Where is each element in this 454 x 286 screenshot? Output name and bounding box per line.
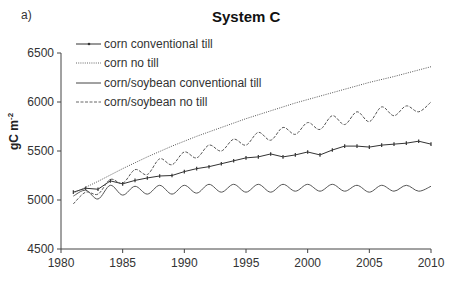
x-tick-label: 1980 <box>48 256 75 270</box>
x-tick-label: 1990 <box>171 256 198 270</box>
y-tick-label: 5000 <box>27 193 54 207</box>
legend-item-corn-soybean-conventional-till: corn/soybean conventional till <box>76 73 261 93</box>
legend-label: corn no till <box>104 56 159 70</box>
x-tick-label: 1995 <box>233 256 260 270</box>
x-tick-label: 2000 <box>294 256 321 270</box>
legend-swatch-dotted <box>76 59 101 67</box>
legend-swatch-solid <box>76 79 101 87</box>
legend-item-corn-no-till: corn no till <box>76 54 261 74</box>
x-tick-label: 2010 <box>418 256 445 270</box>
legend-swatch-solid-markers <box>76 40 101 48</box>
y-tick-label: 6500 <box>27 46 54 60</box>
y-tick-label: 4500 <box>27 242 54 256</box>
legend-item-corn-soybean-no-till: corn/soybean no till <box>76 93 261 113</box>
legend-swatch-dashed <box>76 98 101 106</box>
legend-label: corn/soybean conventional till <box>104 76 261 90</box>
y-tick-label: 6000 <box>27 95 54 109</box>
x-tick-label: 1985 <box>109 256 136 270</box>
x-tick-label: 2005 <box>356 256 383 270</box>
series-line-corn-soybean-conventional-till <box>73 184 431 199</box>
legend: corn conventional till corn no till corn… <box>76 34 261 112</box>
legend-label: corn/soybean no till <box>104 95 207 109</box>
legend-label: corn conventional till <box>104 37 213 51</box>
legend-item-corn-conventional-till: corn conventional till <box>76 34 261 54</box>
y-tick-label: 5500 <box>27 144 54 158</box>
